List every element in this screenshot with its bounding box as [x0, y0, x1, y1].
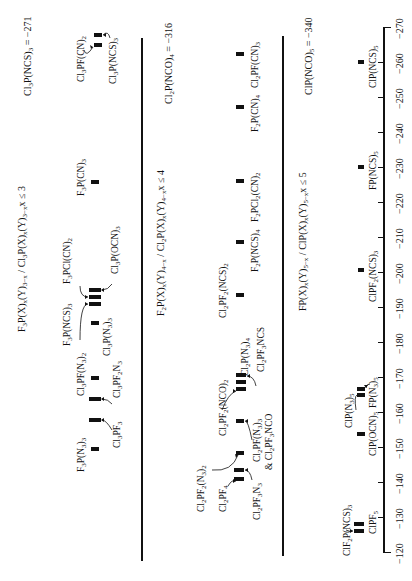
callout-arrows	[0, 0, 412, 581]
